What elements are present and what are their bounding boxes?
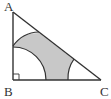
vertex-label-c: C [100,85,109,98]
shaded-region [13,33,74,80]
right-angle-mark [13,74,19,80]
vertex-label-b: B [4,85,13,98]
diagram-canvas [0,0,111,99]
vertex-label-a: A [4,0,13,13]
triangle-diagram: A B C [0,0,111,99]
